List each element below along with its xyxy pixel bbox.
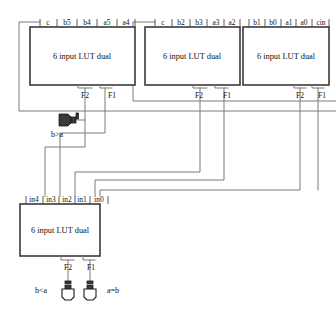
pad-b-gt-a-label: b>a <box>51 130 64 139</box>
lut-block-c-output-f1: F1 <box>318 91 326 100</box>
lut-block-a-input-b5: b5 <box>63 18 71 27</box>
lut-block-d-input-in0: in0 <box>94 195 104 204</box>
lut-block-b-label: 6 input LUT dual <box>163 52 222 61</box>
lut-block-c-input-b1: b1 <box>253 18 261 27</box>
pad-a-eq-b-neck <box>87 285 93 289</box>
lut-block-b-input-c: c <box>161 18 165 27</box>
lut-block-c-label: 6 input LUT dual <box>257 52 316 61</box>
pad-a-eq-b-body <box>84 289 96 300</box>
pad-b-gt-a-tip <box>76 113 79 119</box>
pad-a-eq-b-tip <box>87 281 93 284</box>
lut-block-c-input-b0: b0 <box>269 18 277 27</box>
wire-lutA-f2-to-in3 <box>45 88 85 196</box>
lut-block-c-input-a1: a1 <box>286 18 293 27</box>
lut-block-d-output-f1: F1 <box>87 263 95 272</box>
lut-block-b-input-a2: a2 <box>229 18 236 27</box>
lut-block-d[interactable]: 6 input LUT dual in4 in3 in2 in1 in0 F2 … <box>20 195 108 272</box>
lut-block-b[interactable]: 6 input LUT dual c b2 b3 a3 a2 F2 F1 <box>145 18 240 100</box>
pad-b-gt-a-neck <box>71 117 76 123</box>
lut-block-c-output-f2: F2 <box>296 91 304 100</box>
lut-block-d-input-in4: in4 <box>29 195 39 204</box>
lut-block-a[interactable]: 6 input LUT dual c b5 b4 a5 a4 F2 F1 <box>30 18 135 100</box>
lut-block-d-label: 6 input LUT dual <box>31 226 90 235</box>
pad-b-lt-a-tip <box>65 281 71 284</box>
lut-block-b-output-f2: F2 <box>195 91 203 100</box>
lut-block-b-input-a3: a3 <box>213 18 220 27</box>
lut-block-a-output-f2: F2 <box>81 91 89 100</box>
lut-block-d-input-in3: in3 <box>46 195 56 204</box>
pad-a-equals-b[interactable]: a=b <box>84 281 119 300</box>
pad-b-lt-a-body <box>62 289 74 300</box>
wire-lutB-f1-to-in0 <box>95 88 224 196</box>
lut-block-b-input-b3: b3 <box>195 18 203 27</box>
lut-block-c-input-a0: a0 <box>301 18 308 27</box>
lut-block-a-output-f1: F1 <box>108 91 116 100</box>
pad-b-less-than-a[interactable]: b<a <box>35 281 74 300</box>
lut-block-a-input-a4: a4 <box>123 18 130 27</box>
lut-block-c-input-cin: cin <box>316 18 325 27</box>
lut-block-a-input-c: c <box>46 18 50 27</box>
lut-block-c[interactable]: 6 input LUT dual b1 b0 a1 a0 cin F2 F1 <box>243 18 329 100</box>
pad-b-gt-a-body <box>59 114 71 126</box>
lut-block-d-input-in2: in2 <box>62 195 72 204</box>
pad-b-greater-than-a[interactable]: b>a <box>51 113 79 139</box>
lut-block-b-input-b2: b2 <box>177 18 185 27</box>
lut-block-b-output-f1: F1 <box>223 91 231 100</box>
lut-block-a-label: 6 input LUT dual <box>53 52 112 61</box>
pad-a-eq-b-label: a=b <box>107 286 119 295</box>
lut-block-a-input-a5: a5 <box>104 18 111 27</box>
lut-block-d-output-f2: F2 <box>64 263 72 272</box>
pad-b-lt-a-label: b<a <box>35 286 48 295</box>
lut-block-a-input-b4: b4 <box>83 18 91 27</box>
pad-b-lt-a-neck <box>65 285 71 289</box>
lut-block-d-input-in1: in1 <box>77 195 87 204</box>
circuit-schematic: 6 input LUT dual c b5 b4 a5 a4 F2 F1 6 i… <box>0 0 336 314</box>
